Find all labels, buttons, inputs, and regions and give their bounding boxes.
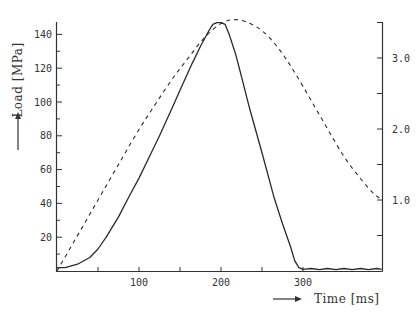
ticks [56, 23, 383, 272]
x-axis-label: Time [ms] [314, 292, 380, 306]
y2-tick-label: 1.0 [392, 195, 410, 206]
y-axis-arrow-icon [15, 112, 21, 150]
x-axis-arrow-icon [273, 296, 302, 302]
load-time-chart: 204060801001201401002003001.02.03.0 Load… [0, 0, 418, 318]
x-tick-label: 100 [130, 277, 148, 288]
y-tick-label: 100 [34, 97, 52, 108]
y-axis-title: Load [MPa] [11, 42, 25, 117]
y-tick-label: 60 [40, 164, 52, 175]
y-axis-label: Load [MPa] [11, 42, 25, 117]
series [57, 20, 382, 271]
y-tick-label: 20 [40, 232, 52, 243]
y-tick-label: 120 [34, 63, 52, 74]
x-tick-label: 200 [212, 277, 230, 288]
load-curve-solid [57, 23, 382, 270]
x-tick-label: 300 [294, 277, 312, 288]
y-tick-label: 140 [34, 29, 52, 40]
y2-tick-label: 3.0 [392, 53, 410, 64]
tick-labels: 204060801001201401002003001.02.03.0 [34, 29, 410, 288]
y-tick-label: 40 [40, 198, 52, 209]
reference-curve-dashed [57, 20, 382, 271]
y-tick-label: 80 [40, 130, 52, 141]
axes [56, 22, 383, 272]
y2-tick-label: 2.0 [392, 124, 410, 135]
